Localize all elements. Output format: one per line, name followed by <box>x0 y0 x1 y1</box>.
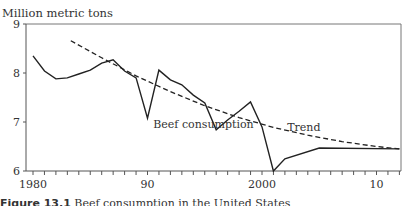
figure-caption-text: Beef consumption in the United States <box>74 197 290 206</box>
figure-caption: Figure 13.1 Beef consumption in the Unit… <box>0 197 290 206</box>
y-tick-label: 8 <box>13 67 20 80</box>
y-tick-label: 6 <box>13 165 20 178</box>
line-chart: Million metric tons 6789 198090200010 Be… <box>0 0 412 206</box>
x-tick-label: 2000 <box>248 178 276 191</box>
x-axis: 198090200010 <box>19 171 399 191</box>
x-tick-label: 1980 <box>19 178 47 191</box>
beef-consumption-label: Beef consumption <box>153 118 253 131</box>
x-tick-label: 10 <box>370 178 384 191</box>
y-tick-label: 7 <box>13 116 20 129</box>
trend-label: Trend <box>287 121 320 134</box>
y-tick-label: 9 <box>13 18 20 31</box>
annotations: Beef consumptionTrend <box>153 118 320 133</box>
y-axis: 6789 <box>13 18 26 178</box>
trend-line <box>71 41 400 149</box>
figure-number: Figure 13.1 <box>0 197 71 206</box>
x-tick-label: 90 <box>141 178 155 191</box>
beef-consumption-line <box>33 56 399 171</box>
series-group <box>33 41 399 171</box>
